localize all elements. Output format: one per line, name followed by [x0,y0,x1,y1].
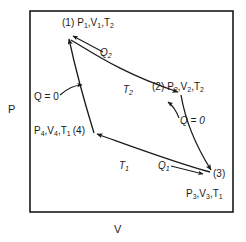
axis-label-pressure: P [8,104,15,115]
isothermal-compression-curve [97,134,210,172]
state-label-2: (2)P2,V2,T2 [152,82,204,92]
state-4-index: (4) [73,125,85,136]
state-label-3-index: (3) [213,169,225,179]
temperature-label-t1: T1 [119,161,129,171]
state-label-3-values: P3,V3,T1 [186,189,223,199]
pv-diagram-figure: (1)P1,V1,T2 (2)P2,V2,T2 (3) P3,V3,T1 P4,… [0,0,246,242]
state-3-pressure: P [186,188,193,199]
state-3-pressure-sub: 3 [193,193,197,200]
state-1-pressure: P [77,17,84,28]
state-2-temperature-sub: 2 [200,86,204,93]
state-1-volume-sub: 1 [97,22,101,29]
state-4-temperature-sub: 1 [67,130,71,137]
q1-symbol: Q [158,160,166,171]
q1-sub: 1 [166,165,170,172]
plot-frame [30,11,233,212]
q2-symbol: Q [100,47,108,58]
state-2-pressure: P [167,81,174,92]
adiabatic-compression-curve [69,39,94,133]
state-4-pressure: P [34,125,41,136]
heat-label-q2: Q2 [100,48,112,58]
state-2-pressure-sub: 2 [174,86,178,93]
state-label-4: P4,V4,T1(4) [34,126,85,136]
t2-sub: 2 [129,89,133,96]
state-2-volume-sub: 2 [187,86,191,93]
q2-sub: 2 [108,52,112,59]
axis-label-volume: V [114,224,121,235]
state-label-1: (1)P1,V1,T2 [62,18,114,28]
state-3-index: (3) [213,168,225,179]
adiabat-right-label: Q = 0 [180,116,205,126]
state-1-temperature-sub: 2 [110,22,114,29]
state-2-index: (2) [152,81,164,92]
adiabat-right-leader-line [168,102,179,118]
state-3-volume-sub: 3 [206,193,210,200]
state-1-index: (1) [62,17,74,28]
adiabatic-expansion-curve [181,95,211,170]
adiabat-left-leader-line [60,85,82,95]
heat-label-q1: Q1 [158,161,170,171]
state-4-temperature: T [61,125,67,136]
temperature-label-t2: T2 [123,85,133,95]
state-4-volume-sub: 4 [54,130,58,137]
q1-leader-line [171,166,203,174]
state-1-pressure-sub: 1 [84,22,88,29]
t1-sub: 1 [125,165,129,172]
state-3-temperature-sub: 1 [219,193,223,200]
state-4-pressure-sub: 4 [41,130,45,137]
adiabat-left-label: Q = 0 [34,92,59,102]
diagram-canvas [0,0,246,242]
state-3-temperature: T [213,188,219,199]
